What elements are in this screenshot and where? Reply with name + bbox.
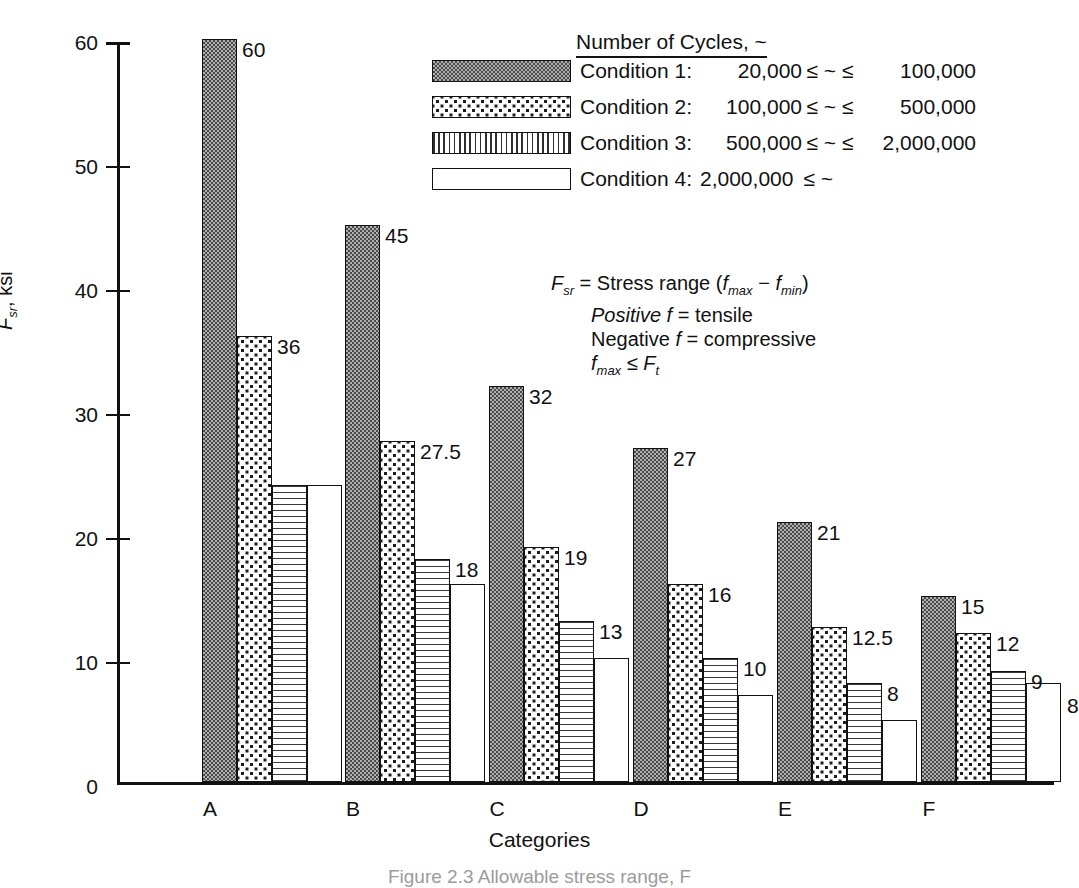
legend-title-text: Number of Cycles, ~	[576, 30, 767, 58]
figure-caption: Figure 2.3 Allowable stress range, F	[0, 866, 1079, 888]
y-tick-label-20: 20	[34, 528, 98, 549]
swatch-condition-2-icon	[432, 96, 571, 118]
legend-high-condition-3: 2,000,000	[858, 131, 976, 155]
note-close-paren: )	[802, 272, 809, 294]
note-fmax-subscript: max	[728, 283, 753, 298]
legend-label-condition-3: Condition 3:	[580, 131, 698, 155]
y-axis-title-unit: , ksi	[0, 271, 16, 307]
note-ft-subscript: t	[655, 363, 659, 378]
y-tick-30	[106, 414, 130, 416]
y-axis-title-subscript: sr	[5, 307, 20, 318]
y-tick-label-60: 60	[34, 32, 98, 53]
bar-label-B-condition-3: 18	[455, 559, 478, 580]
y-tick-label-30: 30	[34, 404, 98, 425]
bar-A-condition-2[interactable]	[237, 336, 272, 782]
bar-label-E-condition-3: 8	[887, 683, 899, 704]
x-tick-label-A: A	[172, 798, 248, 819]
legend-row-condition-3[interactable]: Condition 3: 500,000 ≤ ~ ≤ 2,000,000	[432, 130, 1052, 156]
bar-label-A-condition-2: 36	[277, 336, 300, 357]
bar-D-condition-4[interactable]	[738, 695, 773, 782]
bar-C-condition-1[interactable]	[489, 386, 524, 782]
swatch-condition-3-icon	[432, 132, 571, 154]
bar-B-condition-3[interactable]	[415, 559, 450, 782]
legend-label-condition-4: Condition 4:	[580, 167, 698, 191]
y-tick-label-0: 0	[34, 776, 98, 797]
y-axis-title: Fsr, ksi	[0, 271, 20, 330]
legend-row-condition-4[interactable]: Condition 4: 2,000,000 ≤ ~	[432, 166, 1052, 192]
note-minus: −	[753, 272, 776, 294]
bar-label-C-condition-1: 32	[529, 386, 552, 407]
bar-F-condition-2[interactable]	[956, 633, 991, 782]
legend-relation-condition-2: ≤ ~ ≤	[802, 95, 858, 119]
note-line-2: Positive f = tensile	[551, 303, 816, 327]
bar-label-E-condition-2: 12.5	[852, 627, 893, 648]
legend-low-condition-1: 20,000	[698, 59, 802, 83]
bar-E-condition-2[interactable]	[812, 627, 847, 782]
bar-label-B-condition-2: 27.5	[420, 441, 461, 462]
bar-C-condition-3[interactable]	[559, 621, 594, 782]
y-tick-10	[106, 662, 130, 664]
legend-relation-condition-3: ≤ ~ ≤	[802, 131, 858, 155]
note-fsr-subscript: sr	[563, 283, 574, 298]
x-tick-label-F: F	[891, 798, 967, 819]
bar-label-F-condition-3: 9	[1031, 671, 1043, 692]
bar-F-condition-1[interactable]	[921, 596, 956, 782]
bar-label-B-condition-1: 45	[385, 225, 408, 246]
bar-label-E-condition-1: 21	[817, 522, 840, 543]
bar-F-condition-4[interactable]	[1026, 683, 1061, 782]
bar-A-condition-3[interactable]	[272, 485, 307, 782]
bar-E-condition-1[interactable]	[777, 522, 812, 782]
bar-C-condition-2[interactable]	[524, 547, 559, 782]
bar-label-C-condition-3: 13	[599, 621, 622, 642]
legend-low-condition-2: 100,000	[698, 95, 802, 119]
swatch-condition-1-icon	[432, 60, 571, 82]
note-positive-rest: = tensile	[672, 304, 753, 326]
bar-E-condition-4[interactable]	[882, 720, 917, 782]
bar-B-condition-1[interactable]	[345, 225, 380, 782]
x-tick-label-B: B	[315, 798, 391, 819]
note-negative-word: Negative	[591, 328, 670, 350]
bar-F-condition-3[interactable]	[991, 671, 1026, 782]
bar-A-condition-1[interactable]	[202, 39, 237, 782]
bar-C-condition-4[interactable]	[594, 658, 629, 782]
x-axis-title: Categories	[0, 828, 1079, 852]
note-fsr-symbol: F	[551, 272, 563, 294]
note-le-relation: ≤	[621, 352, 643, 374]
bar-label-D-condition-1: 27	[673, 448, 696, 469]
bar-label-A-condition-1: 60	[242, 39, 265, 60]
bar-D-condition-2[interactable]	[668, 584, 703, 782]
bar-B-condition-2[interactable]	[380, 441, 415, 782]
legend-row-condition-1[interactable]: Condition 1: 20,000 ≤ ~ ≤ 100,000	[432, 58, 1052, 84]
bar-label-D-condition-3: 10	[743, 658, 766, 679]
bar-D-condition-3[interactable]	[703, 658, 738, 782]
y-tick-50	[106, 166, 130, 168]
y-axis-title-symbol: F	[0, 318, 16, 330]
bar-D-condition-1[interactable]	[633, 448, 668, 782]
legend-low-condition-3: 500,000	[698, 131, 802, 155]
y-tick-label-40: 40	[34, 280, 98, 301]
bar-A-condition-4[interactable]	[307, 485, 342, 782]
bar-E-condition-3[interactable]	[847, 683, 882, 782]
swatch-condition-4-icon	[432, 168, 571, 190]
note-fmax2-subscript: max	[597, 363, 622, 378]
bar-label-F-condition-4: 8	[1067, 695, 1079, 716]
note-fsr-equals: = Stress range (	[574, 272, 722, 294]
legend-row-condition-2[interactable]: Condition 2: 100,000 ≤ ~ ≤ 500,000	[432, 94, 1052, 120]
y-tick-60	[106, 42, 130, 45]
legend-title: Number of Cycles, ~	[432, 30, 1052, 54]
note-line-4: fmax ≤ Ft	[551, 351, 816, 383]
legend-label-condition-2: Condition 2:	[580, 95, 698, 119]
note-positive-word: Positive	[591, 304, 661, 326]
note-line-3: Negative f = compressive	[551, 327, 816, 351]
bar-group-A: 60 36 24	[202, 39, 352, 782]
legend-relation-condition-4: ≤ ~	[803, 167, 833, 191]
notes-block: Fsr = Stress range (fmax − fmin) Positiv…	[551, 271, 816, 383]
y-tick-label-10: 10	[34, 652, 98, 673]
bar-label-D-condition-2: 16	[708, 584, 731, 605]
legend: Number of Cycles, ~ Condition 1: 20,000 …	[432, 30, 1052, 202]
note-line-1: Fsr = Stress range (fmax − fmin)	[551, 271, 816, 303]
legend-high-condition-1: 100,000	[858, 59, 976, 83]
bar-label-F-condition-1: 15	[961, 596, 984, 617]
bar-B-condition-4[interactable]	[450, 584, 485, 782]
